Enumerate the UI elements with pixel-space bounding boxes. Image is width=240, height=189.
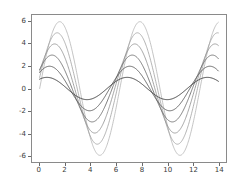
x-tick-mark (116, 163, 117, 166)
x-tick-label: 14 (211, 167, 227, 174)
plot-area (31, 14, 227, 163)
sine-curve (40, 77, 219, 99)
x-tick-mark (65, 163, 66, 166)
y-tick-label: 0 (6, 85, 26, 92)
x-tick-mark (90, 163, 91, 166)
x-tick-mark (168, 163, 169, 166)
x-tick-label: 8 (134, 167, 150, 174)
x-tick-mark (39, 163, 40, 166)
x-tick-mark (193, 163, 194, 166)
x-tick-label: 12 (185, 167, 201, 174)
y-tick-label: -6 (6, 153, 26, 160)
x-tick-label: 2 (57, 167, 73, 174)
y-tick-label: 4 (6, 40, 26, 47)
y-tick-label: 6 (6, 17, 26, 24)
x-tick-label: 0 (31, 167, 47, 174)
sine-curves-group (32, 15, 226, 162)
y-tick-label: -2 (6, 108, 26, 115)
x-tick-label: 10 (160, 167, 176, 174)
x-tick-label: 4 (82, 167, 98, 174)
figure-canvas: 6420-2-4-6 02468101214 (0, 0, 240, 189)
x-tick-label: 6 (108, 167, 124, 174)
x-tick-mark (219, 163, 220, 166)
y-tick-label: 2 (6, 62, 26, 69)
x-tick-mark (142, 163, 143, 166)
y-tick-label: -4 (6, 130, 26, 137)
